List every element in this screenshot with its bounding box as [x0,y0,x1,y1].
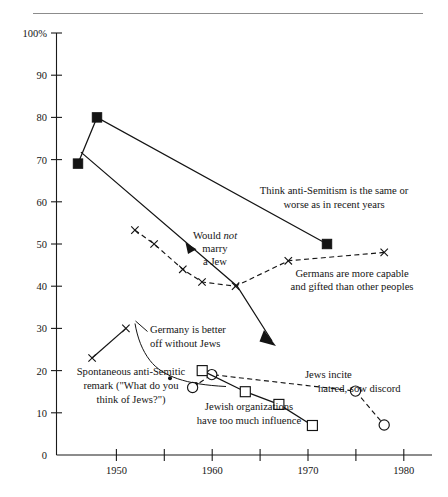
y-tick-label-0: 0 [42,450,47,461]
annotation-anti-semitism-same-or-worse: Think anti-Semitism is the same or worse… [260,185,409,210]
svg-text:Jewish organizations: Jewish organizations [205,401,293,412]
svg-text:Germans are more capable: Germans are more capable [295,268,409,279]
y-axis-tick-labels: 100% 90 80 70 60 50 40 30 20 10 0 [23,28,48,461]
series-would-not-marry-a-jew [81,152,276,346]
y-tick-label-40: 40 [37,281,48,292]
arrowhead-end [260,330,277,346]
svg-text:Germany is better: Germany is better [150,324,226,335]
x-tick-label-1960: 1960 [202,465,223,476]
svg-text:think of Jews?"): think of Jews?") [96,394,166,406]
data-point-marker [322,239,331,248]
annotation-germans-more-capable: Germans are more capable and gifted than… [291,268,414,292]
line-chart-svg: 100% 90 80 70 60 50 40 30 20 10 0 [0,0,448,497]
y-tick-label-60: 60 [37,197,48,208]
svg-text:Jews incite: Jews incite [305,369,352,380]
svg-text:Spontaneous anti-Semitic: Spontaneous anti-Semitic [77,366,186,377]
data-point-marker [188,382,198,392]
data-point-marker [240,387,250,397]
y-tick-label-30: 30 [37,323,48,334]
chart-figure: 100% 90 80 70 60 50 40 30 20 10 0 [0,0,448,497]
annotation-germany-better-off: Germany is better off without Jews [150,324,226,349]
y-tick-label-20: 20 [37,366,48,377]
annotation-leader-lines [136,321,148,332]
svg-text:have too much influence: have too much influence [197,415,302,426]
svg-text:marry: marry [202,243,228,254]
svg-text:a Jew: a Jew [203,256,227,267]
svg-text:Think anti-Semitism is the sam: Think anti-Semitism is the same or [260,185,409,196]
x-tick-label-1950: 1950 [106,465,127,476]
data-point-marker [197,366,207,376]
annotation-would-not-marry-a-jew: Would not marry a Jew [193,230,238,267]
data-point-marker [207,370,217,380]
annotation-spontaneous-remark: Spontaneous anti-Semitic remark ("What d… [77,366,186,406]
top-rule [33,13,423,14]
y-tick-label-70: 70 [37,155,48,166]
svg-text:hatred, sow discord: hatred, sow discord [318,383,401,394]
x-axis-tick-labels: 1950 1960 1970 1980 [106,465,414,476]
series-anti-semitism-same-or-worse [73,113,331,249]
y-tick-label-100: 100% [23,28,48,39]
y-tick-label-50: 50 [37,239,48,250]
x-tick-label-1970: 1970 [298,465,319,476]
x-axis: 1950 1960 1970 1980 [57,449,433,476]
y-tick-label-10: 10 [37,408,48,419]
leader-germany-better-off [136,321,148,332]
series-spontaneous-anti-semitic-remark [88,325,129,362]
x-tick-label-1980: 1980 [393,465,414,476]
svg-text:remark ("What do you: remark ("What do you [83,380,179,392]
svg-text:Would not: Would not [193,230,238,241]
y-tick-label-80: 80 [37,112,48,123]
data-point-marker [73,159,82,168]
arrowhead-mid [186,243,197,254]
data-point-marker [92,113,101,122]
data-point-marker [307,421,317,431]
annotation-jewish-organizations-influence: Jewish organizations have too much influ… [197,401,302,426]
y-tick-label-90: 90 [37,70,48,81]
y-axis: 100% 90 80 70 60 50 40 30 20 10 0 [23,28,63,461]
svg-text:off without Jews: off without Jews [150,338,220,349]
annotation-jews-incite-hatred: Jews incite hatred, sow discord [305,369,401,394]
svg-text:and gifted than other peoples: and gifted than other peoples [291,281,414,292]
svg-text:worse as in recent years: worse as in recent years [283,199,384,210]
data-point-marker [379,420,389,430]
